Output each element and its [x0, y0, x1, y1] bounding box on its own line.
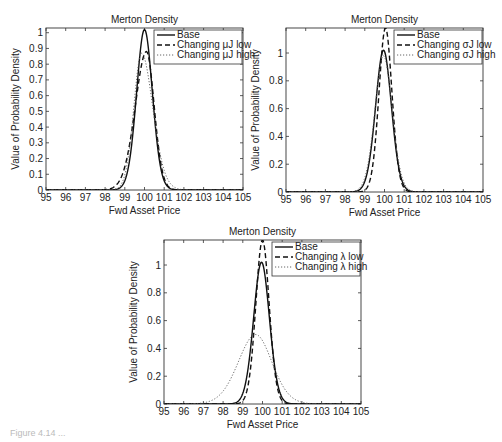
chart-3: 959697989910010110210310410500.20.40.60.…	[128, 226, 370, 430]
series-line	[46, 52, 243, 190]
x-tick-label: 96	[60, 192, 72, 203]
y-tick-label: 0.5	[29, 106, 43, 117]
x-tick-label: 96	[178, 406, 190, 417]
y-tick-label: 0.8	[147, 287, 161, 298]
y-tick-label: 0.2	[29, 153, 43, 164]
x-tick-label: 102	[294, 406, 311, 417]
x-tick-label: 102	[416, 194, 433, 205]
chart-title: Merton Density	[111, 14, 178, 25]
y-tick-label: 0.4	[29, 122, 43, 133]
x-tick-label: 105	[353, 406, 370, 417]
x-tick-label: 100	[136, 192, 153, 203]
y-axis-label: Value of Probability Density	[128, 261, 139, 383]
y-tick-label: 0.2	[269, 159, 283, 170]
x-tick-label: 101	[274, 406, 291, 417]
x-tick-label: 103	[313, 406, 330, 417]
x-tick-label: 100	[376, 194, 393, 205]
y-tick-label: 0.8	[269, 75, 283, 86]
y-tick-label: 0	[277, 187, 283, 198]
chart-title: Merton Density	[351, 14, 418, 25]
y-tick-label: 0.8	[29, 59, 43, 70]
legend: BaseChanging μJ lowChanging μJ high	[154, 29, 255, 64]
y-tick-label: 0	[37, 185, 43, 196]
x-tick-label: 99	[119, 192, 131, 203]
figure-canvas: 959697989910010110210310410500.10.20.30.…	[0, 0, 502, 442]
x-tick-label: 99	[359, 194, 371, 205]
x-tick-label: 96	[300, 194, 312, 205]
chart-title: Merton Density	[229, 226, 296, 237]
y-tick-label: 0.7	[29, 74, 43, 85]
y-tick-label: 0.4	[269, 131, 283, 142]
x-tick-label: 103	[435, 194, 452, 205]
x-tick-label: 101	[396, 194, 413, 205]
x-tick-label: 97	[80, 192, 92, 203]
y-tick-label: 0.9	[29, 43, 43, 54]
series-line	[164, 262, 361, 404]
legend: BaseChanging λ lowChanging λ high	[272, 241, 367, 276]
x-tick-label: 97	[320, 194, 332, 205]
x-axis-label: Fwd Asset Price	[109, 205, 181, 216]
legend-entry: Changing μJ high	[177, 49, 255, 60]
series-line	[46, 53, 243, 190]
y-axis-label: Value of Probability Density	[250, 49, 261, 171]
x-tick-label: 100	[254, 406, 271, 417]
series-line	[164, 335, 361, 404]
x-axis-label: Fwd Asset Price	[227, 419, 299, 430]
y-tick-label: 0.6	[29, 90, 43, 101]
series-line	[286, 56, 483, 192]
series-line	[286, 50, 483, 192]
x-tick-label: 101	[156, 192, 173, 203]
y-tick-label: 0.2	[147, 371, 161, 382]
x-axis-label: Fwd Asset Price	[349, 207, 421, 218]
x-tick-label: 105	[475, 194, 492, 205]
legend: BaseChanging σJ lowChanging σJ high	[394, 29, 495, 64]
legend-entry: Changing σJ high	[417, 49, 495, 60]
y-tick-label: 0.4	[147, 343, 161, 354]
y-tick-label: 0.6	[147, 315, 161, 326]
y-tick-label: 0.1	[29, 169, 43, 180]
x-tick-label: 105	[235, 192, 252, 203]
x-tick-label: 97	[198, 406, 210, 417]
x-tick-label: 98	[218, 406, 230, 417]
y-tick-label: 0	[155, 399, 161, 410]
x-tick-label: 104	[455, 194, 472, 205]
y-tick-label: 1	[37, 27, 43, 38]
y-axis-label: Value of Probability Density	[10, 48, 21, 170]
chart-1: 959697989910010110210310410500.10.20.30.…	[10, 14, 255, 216]
y-tick-label: 0.6	[269, 103, 283, 114]
y-tick-label: 0.3	[29, 137, 43, 148]
y-tick-label: 1	[155, 260, 161, 271]
x-tick-label: 98	[100, 192, 112, 203]
y-tick-label: 1	[277, 48, 283, 59]
x-tick-label: 104	[333, 406, 350, 417]
x-tick-label: 103	[195, 192, 212, 203]
chart-2: 959697989910010110210310410500.20.40.60.…	[250, 14, 495, 218]
x-tick-label: 102	[176, 192, 193, 203]
figure-caption: Figure 4.14 ...	[10, 428, 66, 438]
x-tick-label: 99	[237, 406, 249, 417]
legend-entry: Changing λ high	[295, 261, 367, 272]
x-tick-label: 98	[340, 194, 352, 205]
x-tick-label: 104	[215, 192, 232, 203]
